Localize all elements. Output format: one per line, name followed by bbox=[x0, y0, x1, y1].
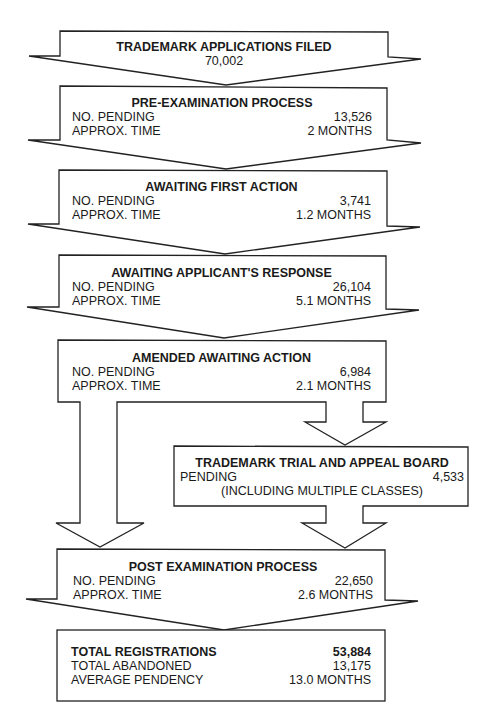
row-value: 26,104 bbox=[333, 280, 371, 294]
row-label: APPROX. TIME bbox=[72, 294, 161, 308]
row-value: 6,984 bbox=[340, 365, 371, 379]
row-value: 13,526 bbox=[334, 110, 372, 124]
stage-row: APPROX. TIME2.1 MONTHS bbox=[72, 379, 371, 393]
stage-title: TRADEMARK APPLICATIONS FILED bbox=[60, 40, 388, 54]
stage-title: AWAITING APPLICANT'S RESPONSE bbox=[72, 266, 371, 280]
row-value: 4,533 bbox=[433, 470, 464, 484]
stage-note: (INCLUDING MULTIPLE CLASSES) bbox=[180, 484, 464, 498]
row-value: 1.2 MONTHS bbox=[296, 208, 371, 222]
summary: TOTAL REGISTRATIONS53,884 TOTAL ABANDONE… bbox=[71, 645, 371, 687]
stage-row: NO. PENDING26,104 bbox=[72, 280, 371, 294]
stage-first-action: AWAITING FIRST ACTION NO. PENDING3,741 A… bbox=[72, 180, 371, 222]
stage-title: AWAITING FIRST ACTION bbox=[72, 180, 371, 194]
row-label: NO. PENDING bbox=[72, 365, 155, 379]
stage-amended: AMENDED AWAITING ACTION NO. PENDING6,984… bbox=[72, 351, 371, 393]
row-value: 13.0 MONTHS bbox=[289, 673, 371, 687]
row-label: NO. PENDING bbox=[72, 280, 155, 294]
row-value: 5.1 MONTHS bbox=[296, 294, 371, 308]
stage-row: APPROX. TIME5.1 MONTHS bbox=[72, 294, 371, 308]
row-label: TOTAL REGISTRATIONS bbox=[71, 645, 217, 659]
stage-title: PRE-EXAMINATION PROCESS bbox=[72, 96, 372, 110]
row-label: NO. PENDING bbox=[72, 110, 155, 124]
stage-row: APPROX. TIME2.6 MONTHS bbox=[73, 588, 373, 602]
row-value: 13,175 bbox=[333, 659, 371, 673]
summary-row-registrations: TOTAL REGISTRATIONS53,884 bbox=[71, 645, 371, 659]
row-value: 53,884 bbox=[333, 645, 371, 659]
stage-title: POST EXAMINATION PROCESS bbox=[73, 560, 373, 574]
summary-row-pendency: AVERAGE PENDENCY13.0 MONTHS bbox=[71, 673, 371, 687]
row-value: 3,741 bbox=[340, 194, 371, 208]
stage-row: NO. PENDING22,650 bbox=[73, 574, 373, 588]
stage-pre-exam: PRE-EXAMINATION PROCESS NO. PENDING13,52… bbox=[72, 96, 372, 138]
stage-title: TRADEMARK TRIAL AND APPEAL BOARD bbox=[180, 456, 464, 470]
row-label: APPROX. TIME bbox=[72, 208, 161, 222]
stage-row: NO. PENDING13,526 bbox=[72, 110, 372, 124]
stage-applicant-response: AWAITING APPLICANT'S RESPONSE NO. PENDIN… bbox=[72, 266, 371, 308]
row-label: NO. PENDING bbox=[72, 194, 155, 208]
stage-ttab: TRADEMARK TRIAL AND APPEAL BOARD PENDING… bbox=[180, 456, 464, 498]
row-label: APPROX. TIME bbox=[73, 588, 162, 602]
row-label: AVERAGE PENDENCY bbox=[71, 673, 203, 687]
stage-row: PENDING4,533 bbox=[180, 470, 464, 484]
row-label: TOTAL ABANDONED bbox=[71, 659, 192, 673]
stage-title: AMENDED AWAITING ACTION bbox=[72, 351, 371, 365]
stage-row: NO. PENDING6,984 bbox=[72, 365, 371, 379]
stage-row: APPROX. TIME1.2 MONTHS bbox=[72, 208, 371, 222]
stage-row: APPROX. TIME2 MONTHS bbox=[72, 124, 372, 138]
stage-value: 70,002 bbox=[60, 54, 388, 68]
stage-filed: TRADEMARK APPLICATIONS FILED 70,002 bbox=[60, 40, 388, 68]
row-value: 2.1 MONTHS bbox=[296, 379, 371, 393]
row-label: APPROX. TIME bbox=[72, 124, 161, 138]
summary-row-abandoned: TOTAL ABANDONED13,175 bbox=[71, 659, 371, 673]
row-label: PENDING bbox=[180, 470, 237, 484]
stage-row: NO. PENDING3,741 bbox=[72, 194, 371, 208]
stage-post-exam: POST EXAMINATION PROCESS NO. PENDING22,6… bbox=[73, 560, 373, 602]
row-value: 2 MONTHS bbox=[307, 124, 372, 138]
row-label: NO. PENDING bbox=[73, 574, 156, 588]
row-value: 2.6 MONTHS bbox=[298, 588, 373, 602]
row-label: APPROX. TIME bbox=[72, 379, 161, 393]
row-value: 22,650 bbox=[335, 574, 373, 588]
